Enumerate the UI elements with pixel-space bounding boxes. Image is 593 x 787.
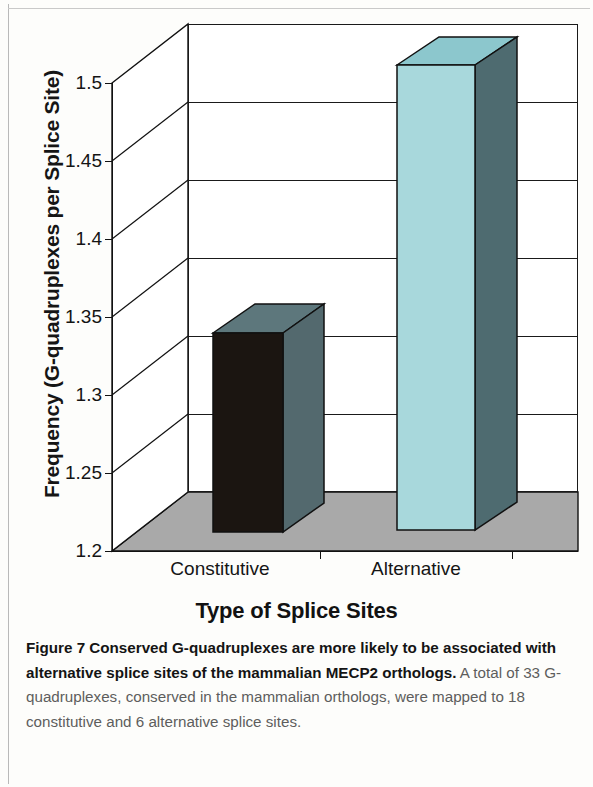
x-axis-line — [112, 551, 578, 552]
y-tick-label-1.3: 1.3 — [42, 384, 102, 406]
y-tick-1.3 — [105, 395, 113, 396]
y-tick-label-1.25: 1.25 — [42, 462, 102, 484]
x-category-label-alternative: Alternative — [316, 558, 516, 580]
y-tick-1.4 — [105, 239, 113, 240]
y-tick-label-1.2: 1.2 — [42, 540, 102, 562]
y-tick-label-1.45: 1.45 — [42, 150, 102, 172]
y-tick-1.45 — [105, 161, 113, 162]
plot-area: 1.5 1.45 1.4 1.35 1.3 1.25 1.2 Constitut… — [0, 0, 593, 600]
bar-alternative-front — [397, 65, 475, 530]
chart-figure: Frequency (G-quadruplexes per Splice Sit… — [0, 0, 593, 600]
bar-constitutive-side — [283, 304, 324, 532]
figure-number: Figure 7 — [26, 639, 85, 656]
x-category-label-constitutive: Constitutive — [120, 558, 320, 580]
figure-caption: Figure 7 Conserved G-quadruplexes are mo… — [26, 636, 578, 734]
y-tick-labels: 1.5 1.45 1.4 1.35 1.3 1.25 1.2 — [40, 0, 102, 600]
bar-constitutive[interactable] — [213, 304, 324, 532]
y-tick-label-1.5: 1.5 — [42, 72, 102, 94]
bar-alternative-side — [475, 37, 517, 530]
y-tick-label-1.4: 1.4 — [42, 228, 102, 250]
bar-alternative[interactable] — [397, 37, 517, 530]
y-tick-1.5 — [105, 83, 113, 84]
y-tick-1.35 — [105, 317, 113, 318]
figure-page: Frequency (G-quadruplexes per Splice Sit… — [0, 0, 593, 787]
y-tick-label-1.35: 1.35 — [42, 306, 102, 328]
x-axis-title: Type of Splice Sites — [0, 598, 593, 624]
y-tick-1.25 — [105, 473, 113, 474]
bar-constitutive-front — [213, 333, 283, 532]
